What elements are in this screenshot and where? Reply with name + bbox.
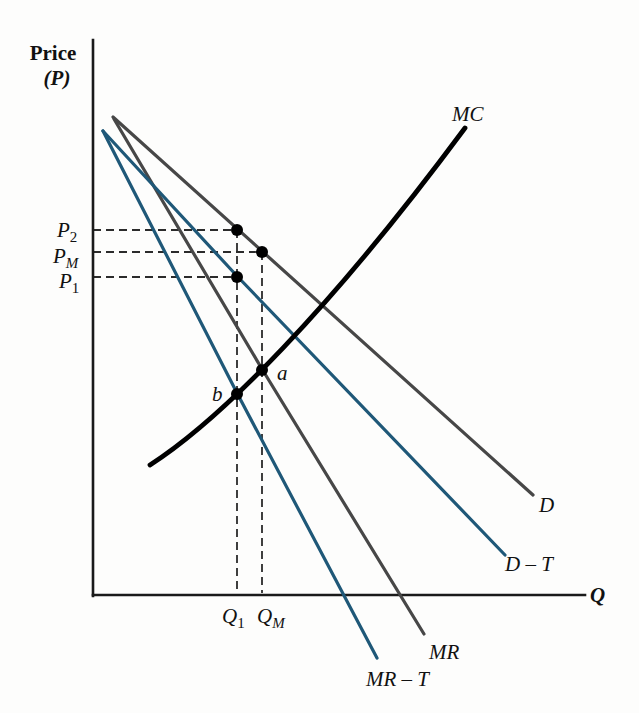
y-axis-title-line1: Price — [30, 41, 77, 65]
dashed-guides — [93, 230, 262, 593]
quantity-label-qm: QM — [257, 604, 286, 631]
price-label-p2: P2 — [56, 218, 77, 245]
point-b — [231, 388, 243, 400]
point-pm-on-d — [256, 246, 268, 258]
curves — [103, 117, 533, 658]
d-t-curve-label: D – T — [504, 552, 554, 576]
axes — [93, 40, 585, 596]
point-p1-on-d-t — [231, 271, 243, 283]
demand-minus-tax-curve — [103, 131, 505, 555]
point-a-label: a — [277, 361, 288, 385]
mc-curve-label: MC — [451, 102, 484, 126]
figure-canvas: Price (P) Q MC D D – T MR MR – T P2 PM P… — [0, 0, 639, 713]
point-p2-on-d — [231, 224, 243, 236]
price-label-pm: PM — [52, 244, 80, 271]
quantity-label-q1: Q1 — [222, 604, 245, 631]
marginal-revenue-curve-mr — [114, 119, 424, 634]
y-axis-title-line2: (P) — [44, 66, 71, 90]
price-label-p1: P1 — [58, 269, 79, 296]
point-a — [256, 364, 268, 376]
labels: Price (P) Q MC D D – T MR MR – T P2 PM P… — [30, 41, 605, 691]
mr-curve-label: MR — [428, 640, 459, 664]
mr-t-curve-label: MR – T — [365, 667, 430, 691]
point-b-label: b — [212, 382, 223, 406]
d-curve-label: D — [538, 493, 554, 517]
economics-figure: Price (P) Q MC D D – T MR MR – T P2 PM P… — [0, 0, 639, 713]
x-axis-title: Q — [590, 583, 605, 607]
marginal-cost-curve — [150, 128, 465, 465]
